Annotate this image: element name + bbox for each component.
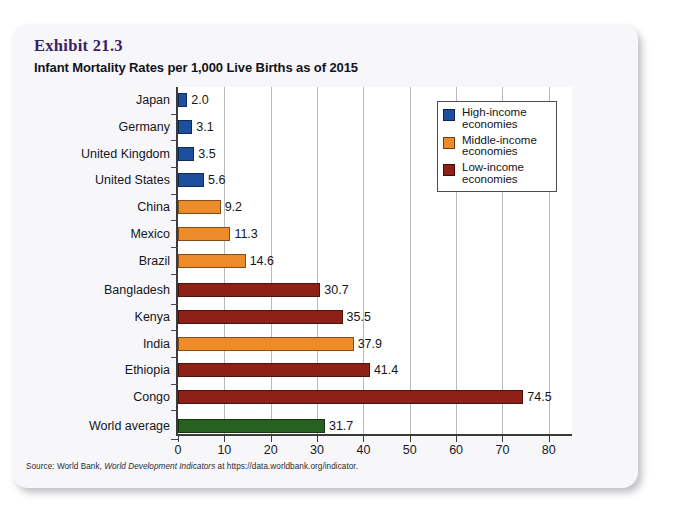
- category-label-china: China: [137, 200, 170, 214]
- bar-value-world-average: 31.7: [329, 419, 353, 433]
- y-tick-4: [171, 220, 178, 221]
- bar-value-united-states: 5.6: [208, 173, 225, 187]
- category-label-ethiopia: Ethiopia: [125, 363, 170, 377]
- bar-ethiopia[interactable]: [178, 363, 370, 377]
- legend-item-low-income[interactable]: Low-income economies: [443, 162, 550, 186]
- legend-label-low-income: Low-income economies: [462, 162, 550, 186]
- bar-value-india: 37.9: [358, 337, 382, 351]
- gridline-40: [363, 87, 364, 434]
- bar-value-united-kingdom: 3.5: [198, 147, 215, 161]
- category-label-kenya: Kenya: [135, 310, 170, 324]
- y-tick-5: [171, 247, 178, 248]
- y-tick-1: [171, 140, 178, 141]
- legend-label-high-income: High-income economies: [462, 107, 550, 131]
- bar-value-mexico: 11.3: [234, 227, 257, 241]
- category-label-mexico: Mexico: [130, 227, 170, 241]
- x-tick-20: [271, 436, 272, 442]
- legend-swatch-middle-income: [443, 137, 455, 149]
- x-tick-label-50: 50: [403, 443, 417, 457]
- gridline-30: [317, 87, 318, 434]
- exhibit-card: Exhibit 21.3 Infant Mortality Rates per …: [12, 24, 638, 488]
- y-tick-11: [171, 410, 178, 411]
- y-tick-0: [171, 114, 178, 115]
- y-tick-2: [171, 167, 178, 168]
- bar-value-japan: 2.0: [191, 93, 208, 107]
- legend-swatch-high-income: [443, 109, 455, 121]
- x-tick-label-80: 80: [542, 443, 556, 457]
- chart-legend: High-income economiesMiddle-income econo…: [437, 101, 557, 192]
- x-tick-40: [363, 436, 364, 442]
- category-label-japan: Japan: [136, 93, 170, 107]
- bar-india[interactable]: [178, 337, 354, 351]
- y-tick-10: [171, 384, 178, 385]
- category-axis-labels: JapanGermanyUnited KingdomUnited StatesC…: [12, 87, 170, 434]
- x-tick-0: [178, 436, 179, 442]
- category-label-brazil: Brazil: [139, 254, 170, 268]
- source-prefix: Source: World Bank,: [26, 462, 104, 471]
- bar-value-congo: 74.5: [527, 390, 551, 404]
- legend-item-high-income[interactable]: High-income economies: [443, 107, 550, 131]
- bar-value-brazil: 14.6: [250, 254, 274, 268]
- bar-china[interactable]: [178, 200, 221, 214]
- category-label-united-kingdom: United Kingdom: [81, 147, 170, 161]
- legend-swatch-low-income: [443, 164, 455, 176]
- legend-label-middle-income: Middle-income economies: [462, 135, 550, 159]
- category-label-germany: Germany: [119, 120, 170, 134]
- x-tick-label-40: 40: [356, 443, 370, 457]
- category-label-world-average: World average: [89, 419, 170, 433]
- bar-value-bangladesh: 30.7: [324, 283, 348, 297]
- x-tick-label-70: 70: [496, 443, 510, 457]
- bar-bangladesh[interactable]: [178, 283, 320, 297]
- source-suffix: at https://data.worldbank.org/indicator.: [215, 462, 358, 471]
- x-tick-60: [456, 436, 457, 442]
- bar-value-germany: 3.1: [196, 120, 213, 134]
- x-tick-10: [224, 436, 225, 442]
- category-label-bangladesh: Bangladesh: [104, 283, 170, 297]
- y-tick-12: [171, 439, 178, 440]
- x-tick-label-30: 30: [310, 443, 324, 457]
- y-tick-8: [171, 330, 178, 331]
- y-tick-6: [171, 274, 178, 275]
- bar-united-states[interactable]: [178, 173, 204, 187]
- legend-item-middle-income[interactable]: Middle-income economies: [443, 135, 550, 159]
- x-tick-label-0: 0: [175, 443, 182, 457]
- bar-japan[interactable]: [178, 93, 187, 107]
- y-tick-7: [171, 304, 178, 305]
- bar-chart: JapanGermanyUnited KingdomUnited StatesC…: [12, 24, 638, 488]
- source-publication: World Development Indicators: [104, 462, 215, 471]
- bar-world-average[interactable]: [178, 419, 325, 433]
- category-label-united-states: United States: [95, 173, 170, 187]
- bar-kenya[interactable]: [178, 310, 343, 324]
- category-label-congo: Congo: [133, 390, 170, 404]
- gridline-50: [410, 87, 411, 434]
- bar-value-kenya: 35.5: [347, 310, 371, 324]
- x-tick-label-20: 20: [264, 443, 278, 457]
- bar-mexico[interactable]: [178, 227, 230, 241]
- bar-value-china: 9.2: [225, 200, 242, 214]
- x-tick-70: [502, 436, 503, 442]
- x-tick-80: [549, 436, 550, 442]
- category-label-india: India: [143, 337, 170, 351]
- bar-value-ethiopia: 41.4: [374, 363, 398, 377]
- bar-united-kingdom[interactable]: [178, 147, 194, 161]
- bar-brazil[interactable]: [178, 254, 246, 268]
- source-note: Source: World Bank, World Development In…: [26, 462, 358, 471]
- x-tick-30: [317, 436, 318, 442]
- page-root: Exhibit 21.3 Infant Mortality Rates per …: [0, 0, 674, 506]
- y-tick-3: [171, 194, 178, 195]
- bar-germany[interactable]: [178, 120, 192, 134]
- x-tick-50: [410, 436, 411, 442]
- bar-congo[interactable]: [178, 390, 523, 404]
- x-tick-label-60: 60: [449, 443, 463, 457]
- x-tick-label-10: 10: [217, 443, 231, 457]
- y-tick-9: [171, 357, 178, 358]
